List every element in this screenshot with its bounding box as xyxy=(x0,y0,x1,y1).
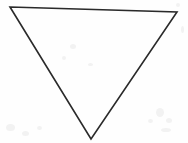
triangle-figure xyxy=(0,0,188,143)
downward-pointing-triangle-outline xyxy=(10,7,177,139)
image-canvas xyxy=(0,0,188,143)
